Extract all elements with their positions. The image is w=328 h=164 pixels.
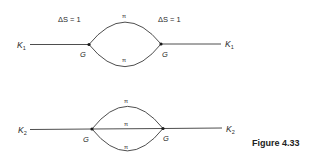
k2-right-vertex: [161, 127, 164, 130]
k2-right-external-line: [163, 128, 222, 129]
k2-left-label: K2: [18, 125, 27, 136]
k1-left-vertex: [87, 43, 90, 46]
k2-right-label: K2: [226, 124, 235, 135]
k1-upper-pion-line: [89, 22, 161, 44]
k2-middle-pion-line: [92, 129, 163, 130]
k1-left-label: K1: [17, 40, 26, 51]
k2-right-vertex-label: G: [163, 134, 169, 143]
diagram-k2: K2 K2 G G π π π: [18, 98, 235, 151]
k2-left-external-line: [30, 129, 92, 130]
k1-right-label: K1: [225, 39, 234, 50]
figure-caption: Figure 4.33: [252, 138, 300, 148]
k1-lower-pion-label: π: [122, 57, 126, 63]
feynman-diagrams: K1 K1 G G ΔS = 1 ΔS = 1 π π K2 K2 G G π …: [0, 0, 328, 164]
k1-left-delta-s-annotation: ΔS = 1: [58, 15, 81, 24]
k1-upper-pion-label: π: [122, 13, 126, 19]
k1-right-vertex-label: G: [162, 50, 168, 59]
diagram-k1: K1 K1 G G ΔS = 1 ΔS = 1 π π: [17, 13, 234, 67]
k1-right-vertex: [159, 42, 162, 45]
k1-right-delta-s-annotation: ΔS = 1: [158, 15, 181, 24]
k2-left-vertex-label: G: [83, 135, 89, 144]
k2-left-vertex: [90, 127, 93, 130]
k2-lower-pion-label: π: [124, 144, 128, 150]
k2-upper-pion-label: π: [124, 98, 128, 104]
k2-middle-pion-label: π: [124, 121, 128, 127]
k1-lower-pion-line: [89, 44, 161, 67]
k1-left-vertex-label: G: [80, 50, 86, 59]
